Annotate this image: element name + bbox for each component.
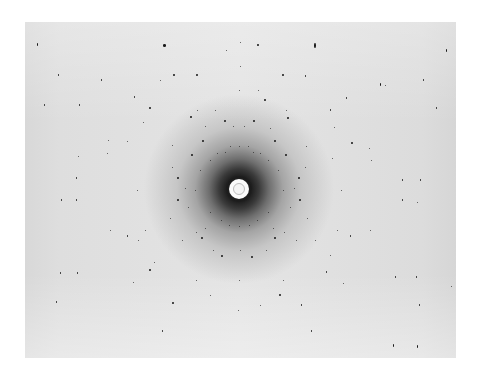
- diffraction-spot: [270, 128, 271, 129]
- diffraction-spot: [402, 199, 403, 201]
- diffraction-spot: [127, 235, 128, 237]
- diffraction-spot: [133, 282, 134, 283]
- diffraction-spot: [417, 345, 418, 348]
- diffraction-spot: [172, 167, 173, 168]
- diffraction-spot: [239, 146, 240, 147]
- diffraction-spot: [240, 250, 241, 251]
- diffraction-spot: [107, 153, 108, 154]
- diffraction-spot: [283, 280, 284, 281]
- diffraction-spot: [163, 44, 166, 47]
- diffraction-spot: [233, 126, 234, 127]
- diffraction-spot: [371, 160, 372, 161]
- diffraction-spot: [436, 107, 437, 109]
- diffraction-spot: [56, 301, 57, 303]
- diffraction-spot: [417, 202, 418, 203]
- diffraction-spot: [239, 226, 240, 227]
- diffraction-spot: [257, 220, 258, 221]
- diffraction-spot: [326, 271, 327, 273]
- diffraction-spot: [370, 230, 371, 231]
- diffraction-spot: [160, 80, 161, 81]
- diffraction-spot: [274, 140, 276, 142]
- diffraction-spot: [395, 276, 396, 278]
- diffraction-spot: [253, 152, 254, 153]
- diffraction-spot: [268, 212, 269, 213]
- diffraction-spot: [177, 177, 179, 179]
- diffraction-spot: [446, 49, 447, 52]
- diffraction-spot: [205, 126, 206, 127]
- diffraction-spot: [305, 75, 306, 77]
- diffraction-spot: [127, 141, 128, 142]
- diffraction-spot: [221, 255, 223, 257]
- diffraction-spot: [341, 190, 342, 191]
- diffraction-spot: [337, 230, 338, 231]
- diffraction-spot: [37, 43, 38, 46]
- diffraction-spot: [230, 146, 231, 147]
- diffraction-spot: [282, 74, 284, 76]
- diffraction-spot: [196, 280, 197, 281]
- diffraction-spot: [78, 156, 79, 157]
- diffraction-spot: [258, 90, 259, 91]
- diffraction-spot: [286, 110, 287, 111]
- diffraction-spot: [44, 104, 45, 106]
- diffraction-spot: [226, 50, 227, 51]
- diffraction-spot: [350, 235, 351, 237]
- diffraction-spot: [334, 127, 335, 128]
- diffraction-spot: [314, 43, 316, 48]
- diffraction-spot: [257, 44, 259, 46]
- diffraction-spot: [393, 344, 394, 347]
- diffraction-spot: [110, 230, 111, 231]
- diffraction-spot: [351, 142, 353, 144]
- diffraction-spot: [225, 152, 226, 153]
- diffraction-spot: [221, 220, 222, 221]
- diffraction-spot: [385, 85, 386, 86]
- diffraction-spot: [416, 276, 417, 278]
- diffraction-spot: [311, 330, 312, 332]
- diffraction-spot: [162, 330, 163, 332]
- diffraction-spot: [197, 110, 198, 111]
- diffraction-spot: [268, 160, 269, 161]
- diffraction-spot: [177, 199, 179, 201]
- diffraction-spot: [76, 177, 77, 179]
- diffraction-spot: [202, 140, 204, 142]
- diffraction-spot: [188, 207, 189, 208]
- diffraction-spot: [108, 140, 109, 141]
- diffraction-spot: [330, 255, 331, 256]
- diffraction-spot: [210, 212, 211, 213]
- diffraction-spot: [238, 310, 239, 311]
- diffraction-spot: [200, 170, 201, 171]
- diffraction-spot: [343, 283, 344, 284]
- diffraction-spot: [419, 304, 420, 306]
- diffraction-spot: [137, 190, 138, 191]
- diffraction-spot: [239, 280, 240, 281]
- diffraction-spot: [134, 96, 135, 98]
- diffraction-spot: [306, 146, 307, 147]
- diffraction-spot: [369, 148, 370, 149]
- diffraction-spot: [380, 83, 381, 86]
- diffraction-spot: [307, 218, 308, 219]
- diffraction-spot: [239, 90, 240, 91]
- diffraction-spot: [301, 304, 302, 306]
- diffraction-spot: [154, 262, 155, 263]
- diffraction-spot: [201, 237, 203, 239]
- diffraction-spot: [215, 110, 216, 111]
- diffraction-spots-layer: [0, 0, 481, 378]
- diffraction-spot: [58, 74, 59, 76]
- diffraction-spot: [264, 99, 266, 101]
- diffraction-spot: [143, 122, 144, 123]
- diffraction-spot: [196, 232, 197, 233]
- diffraction-spot: [305, 167, 306, 168]
- diffraction-spot: [173, 74, 175, 76]
- diffraction-spot: [224, 120, 226, 122]
- diffraction-spot: [330, 109, 331, 111]
- diffraction-spot: [284, 232, 285, 233]
- diffraction-spot: [253, 120, 255, 122]
- diffraction-spot: [205, 228, 206, 229]
- diffraction-spot: [298, 177, 300, 179]
- diffraction-spot: [296, 240, 297, 241]
- diffraction-spot: [190, 116, 192, 118]
- diffraction-spot: [145, 230, 146, 231]
- diffraction-spot: [299, 199, 301, 201]
- diffraction-spot: [266, 250, 267, 251]
- diffraction-spot: [138, 240, 139, 241]
- diffraction-spot: [77, 272, 78, 274]
